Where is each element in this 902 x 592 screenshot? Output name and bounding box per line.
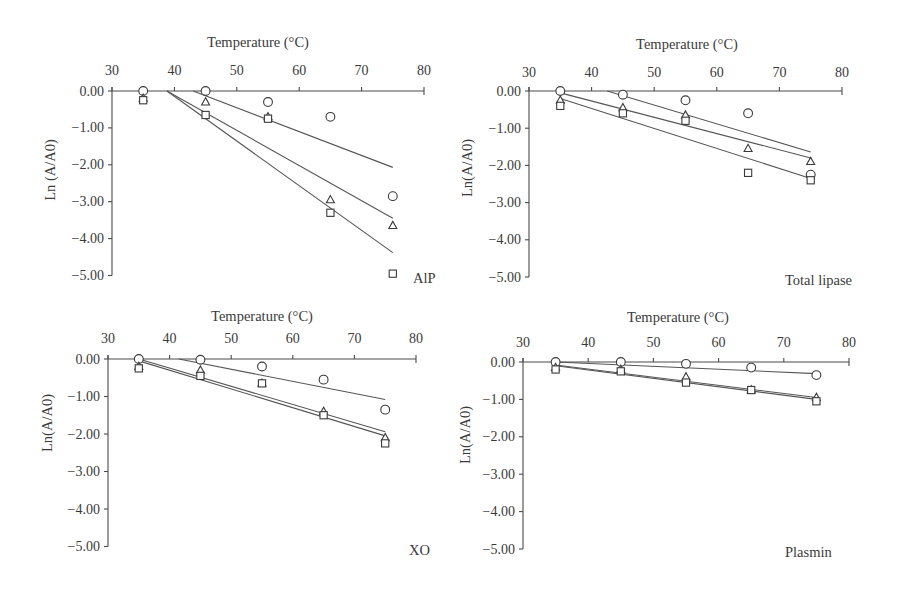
chart-panel-alp: 3040506070800.00−1.00−2.00−3.00−4.00−5.0… (42, 34, 436, 286)
y-tick-label: −3.00 (68, 464, 100, 479)
series-triangle (135, 362, 389, 440)
y-tick-label: −3.00 (483, 467, 515, 482)
circle-marker-icon (264, 98, 273, 107)
x-tick-label: 40 (581, 335, 595, 350)
x-tick-label: 50 (646, 335, 660, 350)
square-marker-icon (552, 366, 559, 373)
chart-panel-xo: 3040506070800.00−1.00−2.00−3.00−4.00−5.0… (39, 308, 430, 558)
circle-marker-icon (319, 375, 328, 384)
square-marker-icon (813, 398, 820, 405)
triangle-marker-icon (389, 221, 397, 228)
x-tick-label: 60 (712, 335, 726, 350)
y-axis-title: Ln(A/A0) (39, 394, 56, 452)
y-tick-label: −2.00 (72, 157, 104, 172)
y-tick-label: −1.00 (489, 121, 521, 136)
circle-marker-icon (258, 362, 267, 371)
x-tick-label: 70 (777, 335, 791, 350)
square-marker-icon (557, 102, 564, 109)
x-tick-label: 30 (522, 65, 536, 80)
y-tick-label: −1.00 (72, 120, 104, 135)
circle-marker-icon (201, 87, 210, 96)
square-marker-icon (748, 386, 755, 393)
square-marker-icon (682, 117, 689, 124)
y-tick-label: 0.00 (76, 352, 101, 367)
x-tick-label: 30 (516, 335, 530, 350)
y-tick-label: −4.00 (68, 502, 100, 517)
y-tick-label: −5.00 (72, 268, 104, 283)
series-square (135, 365, 389, 447)
x-tick-label: 80 (835, 65, 849, 80)
x-tick-label: 70 (772, 65, 786, 80)
series-triangle (139, 94, 397, 229)
y-tick-label: −1.00 (483, 392, 515, 407)
x-tick-label: 80 (409, 331, 423, 346)
circle-marker-icon (196, 355, 205, 364)
panel-label: Plasmin (785, 544, 832, 560)
y-tick-label: −2.00 (68, 427, 100, 442)
y-axis-title: Ln(A/A0) (457, 406, 474, 464)
y-tick-label: −5.00 (68, 539, 100, 554)
square-marker-icon (135, 365, 142, 372)
square-marker-icon (382, 440, 389, 447)
y-tick-label: −1.00 (68, 389, 100, 404)
square-marker-icon (264, 115, 271, 122)
y-axis-title: Ln(A/A0) (459, 139, 476, 197)
y-tick-label: 0.00 (497, 84, 522, 99)
series-circle (139, 87, 397, 201)
square-marker-icon (140, 97, 147, 104)
circle-marker-icon (619, 90, 628, 99)
triangle-marker-icon (326, 196, 334, 203)
x-tick-label: 30 (105, 63, 119, 78)
y-tick-label: −2.00 (489, 158, 521, 173)
circle-marker-icon (682, 359, 691, 368)
chart-panel-total-lipase: 3040506070800.00−1.00−2.00−3.00−4.00−5.0… (459, 36, 852, 288)
y-tick-label: −4.00 (72, 231, 104, 246)
plot-canvas: 3040506070800.00−1.00−2.00−3.00−4.00−5.0… (0, 0, 902, 592)
x-tick-label: 50 (647, 65, 661, 80)
square-marker-icon (258, 380, 265, 387)
square-marker-icon (617, 368, 624, 375)
y-tick-label: −4.00 (483, 504, 515, 519)
circle-marker-icon (747, 363, 756, 372)
x-tick-label: 60 (710, 65, 724, 80)
square-marker-icon (202, 111, 209, 118)
circle-marker-icon (388, 192, 397, 201)
square-marker-icon (807, 177, 814, 184)
panel-label: Total lipase (785, 272, 852, 288)
x-tick-label: 30 (101, 331, 115, 346)
triangle-marker-icon (202, 98, 210, 105)
y-tick-label: −5.00 (489, 270, 521, 285)
fit-line-circle (193, 91, 393, 167)
chart-panel-plasmin: 3040506070800.00−1.00−2.00−3.00−4.00−5.0… (457, 309, 856, 560)
circle-marker-icon (556, 87, 565, 96)
triangle-marker-icon (807, 157, 815, 164)
fit-line-circle (179, 359, 385, 400)
y-tick-label: −2.00 (483, 429, 515, 444)
x-tick-label: 40 (585, 65, 599, 80)
circle-marker-icon (812, 371, 821, 380)
x-tick-label: 60 (286, 331, 300, 346)
square-marker-icon (389, 270, 396, 277)
y-tick-label: −3.00 (72, 194, 104, 209)
x-axis-title: Temperature (°C) (636, 36, 738, 53)
x-axis-title: Temperature (°C) (627, 309, 729, 326)
fit-line-circle (607, 91, 810, 152)
x-tick-label: 40 (167, 63, 181, 78)
square-marker-icon (745, 169, 752, 176)
x-tick-label: 70 (355, 63, 369, 78)
square-marker-icon (682, 379, 689, 386)
fit-line-square (167, 91, 393, 253)
y-tick-label: −3.00 (489, 195, 521, 210)
y-tick-label: 0.00 (80, 84, 105, 99)
x-axis-title: Temperature (°C) (207, 34, 309, 51)
circle-marker-icon (326, 112, 335, 121)
triangle-marker-icon (744, 144, 752, 151)
x-tick-label: 70 (347, 331, 361, 346)
figure-four-panel-inactivation-plots: 3040506070800.00−1.00−2.00−3.00−4.00−5.0… (0, 0, 902, 592)
y-axis-title: Ln (A/A0) (42, 139, 59, 201)
y-tick-label: −4.00 (489, 232, 521, 247)
x-tick-label: 60 (292, 63, 306, 78)
x-axis-title: Temperature (°C) (211, 308, 313, 325)
circle-marker-icon (744, 109, 753, 118)
x-tick-label: 80 (842, 335, 856, 350)
